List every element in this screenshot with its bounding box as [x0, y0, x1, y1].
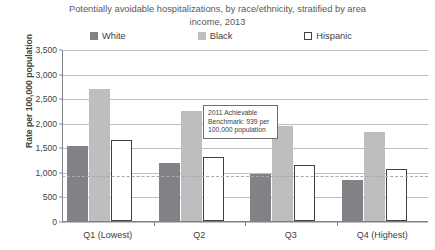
benchmark-reference-line [62, 176, 428, 177]
benchmark-annotation: 2011 Achievable Benchmark: 939 per 100,0… [203, 105, 278, 139]
bar-black-2 [272, 126, 293, 221]
chart-container: Potentially avoidable hospitalizations, … [0, 0, 435, 250]
bar-white-3 [342, 180, 363, 221]
bar-black-0 [89, 89, 110, 221]
x-tick-label: Q1 (Lowest) [83, 230, 132, 240]
legend-swatch-hispanic-icon [304, 32, 312, 40]
bar-hispanic-2 [294, 165, 315, 221]
bar-hispanic-0 [111, 140, 132, 221]
bar-white-2 [250, 174, 271, 221]
y-tick-label: 2,000 [35, 119, 57, 129]
legend-item-hispanic: Hispanic [304, 31, 352, 41]
x-axis-separator [245, 222, 246, 226]
x-tick-label: Q4 (Highest) [357, 230, 408, 240]
legend-label-hispanic: Hispanic [316, 31, 352, 41]
bar-hispanic-1 [203, 157, 224, 221]
bar-group [337, 50, 429, 221]
x-axis-separator [154, 222, 155, 226]
y-tick-label: 1,500 [35, 143, 57, 153]
y-axis-title: Rate per 100,000 population [24, 16, 34, 166]
chart-title: Potentially avoidable hospitalizations, … [55, 3, 380, 28]
y-tick-label: 3,500 [35, 45, 57, 55]
legend-swatch-white-icon [90, 32, 98, 40]
legend-item-black: Black [198, 31, 233, 41]
bar-hispanic-3 [386, 169, 407, 221]
y-tick-label: 2,500 [35, 94, 57, 104]
y-tick-label: 1,000 [35, 168, 57, 178]
chart-legend: White Black Hispanic [90, 31, 352, 41]
legend-label-black: Black [210, 31, 233, 41]
y-tick-label: 3,000 [35, 70, 57, 80]
x-tick-label: Q2 [193, 230, 205, 240]
x-axis-separator [337, 222, 338, 226]
y-tick-label: 0 [52, 217, 57, 227]
bar-group [62, 50, 154, 221]
x-tick-label: Q3 [285, 230, 297, 240]
bar-black-1 [181, 111, 202, 221]
legend-swatch-black-icon [198, 32, 206, 40]
bar-white-1 [159, 163, 180, 221]
bar-white-0 [67, 146, 88, 221]
y-tick-label: 500 [43, 192, 57, 202]
legend-label-white: White [102, 31, 126, 41]
legend-item-white: White [90, 31, 126, 41]
